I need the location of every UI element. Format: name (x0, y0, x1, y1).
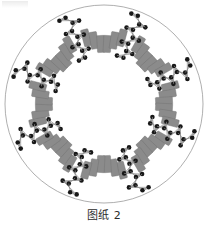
connector-node-light (121, 157, 124, 160)
connector-node-light (124, 41, 127, 44)
connector-node-light (72, 192, 75, 195)
connector-node-dark (68, 190, 73, 195)
connector-node-light (55, 87, 58, 90)
connector-node-dark (190, 135, 195, 140)
connector-node-light (41, 82, 44, 85)
connector-cross-link (66, 34, 84, 35)
connector-node-dark (57, 18, 62, 23)
connector-node-light (119, 55, 122, 58)
connector-node-dark (185, 57, 190, 62)
connector-node-dark (18, 146, 23, 151)
connector-node-light (82, 164, 85, 167)
connector-node-light (188, 61, 191, 64)
connector-node-dark (74, 192, 79, 197)
figure-page: 图纸 2 (0, 0, 208, 230)
connector-node-dark (192, 129, 197, 134)
connector-node-light (61, 18, 64, 21)
connector-node-dark (188, 63, 193, 68)
connector-cross-link (173, 66, 174, 84)
outer-boundary-circle (5, 5, 203, 203)
connector-node-dark (135, 13, 140, 18)
connector-node-dark (146, 185, 151, 190)
connector-node-light (150, 119, 153, 122)
diagram-outline-group (5, 5, 203, 203)
connector-cross-link (124, 173, 142, 174)
figure-caption: 图纸 2 (0, 208, 208, 224)
connector-node-dark (140, 188, 145, 193)
connector-node-dark (63, 15, 68, 20)
connector-node-light (84, 48, 87, 51)
connector-node-light (87, 150, 90, 153)
connector-node-light (157, 84, 160, 87)
connector-node-light (48, 121, 51, 124)
connector-node-light (13, 72, 16, 75)
connector-node-light (18, 144, 21, 147)
connector-node-light (164, 124, 167, 127)
connector-node-light (144, 188, 147, 191)
connector-node-light (133, 13, 136, 16)
connector-cross-link (34, 124, 35, 142)
connector-node-dark (11, 74, 16, 79)
connector-node-dark (13, 68, 18, 73)
coil-bars-layer (29, 29, 180, 180)
connector-node-dark (15, 140, 20, 145)
connector-node-dark (129, 11, 134, 16)
connector-node-light (192, 133, 195, 136)
radial-winding-diagram (0, 0, 208, 208)
